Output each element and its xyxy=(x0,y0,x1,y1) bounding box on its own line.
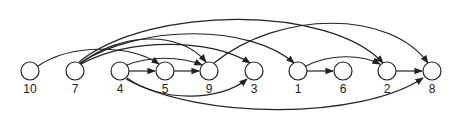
node-8: 8 xyxy=(423,62,441,96)
node-10: 10 xyxy=(21,62,39,96)
node-label: 10 xyxy=(23,82,37,96)
node-circle xyxy=(289,62,307,80)
edge-7-to-3 xyxy=(81,44,250,64)
node-circle xyxy=(156,62,174,80)
node-3: 3 xyxy=(245,62,263,96)
node-9: 9 xyxy=(200,62,218,96)
node-circle xyxy=(334,62,352,80)
node-label: 8 xyxy=(429,82,436,96)
edges-layer xyxy=(38,19,428,109)
nodes-layer: 10745931628 xyxy=(21,62,441,96)
edge-4-to-3 xyxy=(127,78,247,96)
edge-4-to-8 xyxy=(126,78,423,110)
node-label: 1 xyxy=(295,82,302,96)
node-1: 1 xyxy=(289,62,307,96)
node-circle xyxy=(66,62,84,80)
edge-7-to-2 xyxy=(79,19,383,63)
node-circle xyxy=(111,62,129,80)
node-6: 6 xyxy=(334,62,352,96)
node-label: 9 xyxy=(206,82,213,96)
node-label: 3 xyxy=(251,82,258,96)
node-circle xyxy=(378,62,396,80)
dag-diagram: 10745931628 xyxy=(0,0,460,120)
node-5: 5 xyxy=(156,62,174,96)
node-label: 7 xyxy=(72,82,79,96)
node-circle xyxy=(200,62,218,80)
node-label: 5 xyxy=(162,82,169,96)
node-label: 4 xyxy=(117,82,124,96)
edge-7-to-1 xyxy=(80,34,294,63)
node-circle xyxy=(245,62,263,80)
node-circle xyxy=(423,62,441,80)
node-circle xyxy=(21,62,39,80)
node-label: 2 xyxy=(384,82,391,96)
node-7: 7 xyxy=(66,62,84,96)
node-2: 2 xyxy=(378,62,396,96)
node-label: 6 xyxy=(340,82,347,96)
